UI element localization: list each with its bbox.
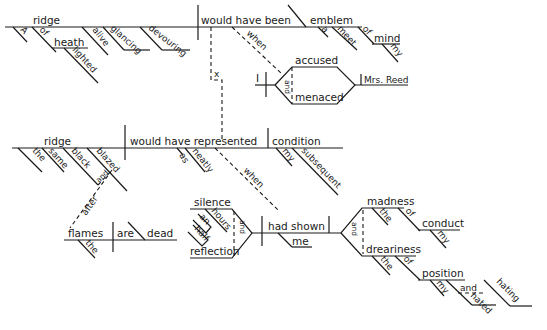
word-menaced: menaced: [295, 91, 344, 103]
word-reflection: reflection: [190, 245, 240, 257]
word-dreariness: dreariness: [366, 243, 421, 255]
word-condition: condition: [272, 135, 321, 147]
sentence-diagram: ridge would have been emblem A of heath …: [0, 0, 547, 330]
clause-2: ridge would have represented condition t…: [12, 125, 532, 316]
word-verb-2: would have represented: [130, 135, 257, 147]
word-half: half: [193, 224, 212, 244]
word-hated: hated: [469, 290, 494, 315]
word-the-4: the: [378, 254, 395, 272]
word-of-2: of: [361, 24, 375, 38]
word-mrs-reed: Mrs. Reed: [364, 75, 409, 85]
word-when-1: when: [245, 28, 270, 52]
word-alive: alive: [90, 25, 111, 48]
word-flames: flames: [68, 227, 103, 239]
word-same: same: [47, 146, 71, 171]
word-subsequent: subsequent: [300, 145, 344, 190]
word-I: I: [256, 72, 259, 84]
word-my-2: my: [280, 146, 297, 164]
word-are: are: [117, 227, 134, 239]
word-accused: accused: [295, 54, 338, 66]
word-my-3: my: [435, 228, 452, 246]
word-hating: hating: [495, 276, 522, 303]
word-my-4: my: [434, 278, 451, 296]
word-hours: hours: [209, 206, 233, 232]
word-of-3: of: [404, 206, 418, 220]
word-silence: silence: [194, 196, 231, 208]
word-ridge-2: ridge: [44, 135, 71, 147]
word-dead: dead: [147, 227, 173, 239]
word-and-3: and: [238, 220, 247, 234]
word-and-1: and: [283, 80, 292, 94]
word-ridge: ridge: [33, 14, 60, 26]
word-madness: madness: [367, 195, 414, 207]
word-emblem: emblem: [310, 14, 353, 26]
word-x: x: [214, 69, 220, 79]
word-and-4: and: [350, 222, 359, 236]
word-after: after: [79, 194, 100, 217]
x-connector: [211, 27, 222, 140]
word-the-3: the: [377, 206, 394, 224]
word-me: me: [292, 235, 309, 247]
word-verb: would have been: [201, 14, 291, 26]
word-had-shown: had shown: [268, 220, 325, 232]
clause-1: ridge would have been emblem A of heath …: [5, 5, 409, 140]
